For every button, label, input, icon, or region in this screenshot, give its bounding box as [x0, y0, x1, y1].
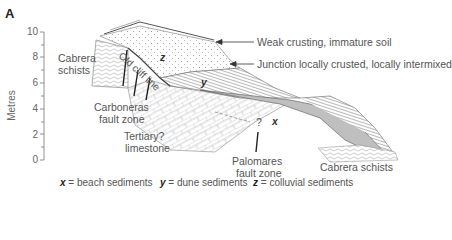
label-x: x	[272, 115, 278, 127]
legend-text-x: = beach sediments	[66, 177, 153, 188]
label-carboneras-1: Carboneras	[94, 101, 149, 113]
label-cabrera-schists-left-1: Cabrera	[58, 52, 96, 64]
label-z: z	[160, 51, 165, 63]
label-carboneras-2: fault zone	[99, 113, 145, 125]
label-cabrera-schists-right: Cabrera schists	[320, 161, 393, 173]
legend-item-z: z = colluvial sediments	[253, 177, 353, 188]
label-weak-crusting: Weak crusting, immature soil	[257, 36, 392, 48]
label-question-mark: ?	[256, 116, 262, 128]
label-tertiary-1: Tertiary?	[124, 130, 164, 142]
legend-item-x: x = beach sediments	[60, 177, 153, 188]
label-y: y	[201, 76, 207, 88]
label-tertiary-2: limestone	[125, 142, 170, 154]
legend-text-z: = colluvial sediments	[258, 177, 353, 188]
label-junction: Junction locally crusted, locally interm…	[257, 58, 452, 70]
label-palomares-1: Palomares	[232, 155, 282, 167]
legend-item-y: y = dune sediments	[160, 177, 248, 188]
axis-ticks	[40, 32, 44, 160]
label-cabrera-schists-left-2: schists	[58, 64, 90, 76]
legend-text-y: = dune sediments	[166, 177, 248, 188]
